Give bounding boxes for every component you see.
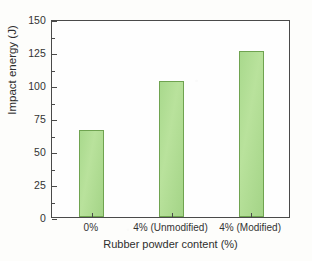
- x-axis-tick: [251, 213, 252, 217]
- x-axis-tick-label: 4% (Modified): [219, 222, 281, 233]
- y-axis-tick: [52, 219, 57, 220]
- y-axis-tick-label: 0: [19, 212, 46, 224]
- y-axis-tick: [52, 87, 57, 88]
- y-axis-tick-label: 125: [19, 47, 46, 59]
- x-axis-tick-label: 0%: [84, 222, 98, 233]
- y-axis-tick-label: 25: [19, 179, 46, 191]
- y-axis-tick: [52, 54, 57, 55]
- bar: [79, 130, 104, 217]
- y-axis-title: Impact energy (J): [6, 0, 18, 145]
- y-axis-tick-label: 75: [19, 113, 46, 125]
- y-axis-minor-tick: [52, 104, 55, 105]
- y-axis-tick: [52, 21, 57, 22]
- chart-figure: Impact energy (J) 0255075100125150 0%4% …: [0, 0, 312, 261]
- y-axis-minor-tick: [52, 170, 55, 171]
- y-axis-tick-label: 50: [19, 146, 46, 158]
- plot-area: [51, 20, 290, 218]
- bar: [159, 81, 184, 217]
- y-axis-minor-tick: [52, 137, 55, 138]
- y-axis-minor-tick: [52, 203, 55, 204]
- bar: [239, 51, 264, 217]
- x-axis-tick: [172, 213, 173, 217]
- y-axis-minor-tick: [52, 71, 55, 72]
- y-axis-tick: [52, 120, 57, 121]
- x-axis-title: Rubber powder content (%): [51, 238, 290, 250]
- y-axis-tick: [52, 153, 57, 154]
- x-axis-tick-label: 4% (Unmodified): [133, 222, 207, 233]
- x-axis-tick: [92, 213, 93, 217]
- y-axis-minor-tick: [52, 38, 55, 39]
- y-axis-tick-label: 150: [19, 14, 46, 26]
- y-axis-tick: [52, 186, 57, 187]
- y-axis-tick-label: 100: [19, 80, 46, 92]
